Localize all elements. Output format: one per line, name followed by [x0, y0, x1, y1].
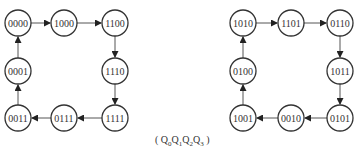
right-edges	[243, 23, 340, 118]
state-node: 0110	[327, 10, 353, 36]
state-label: 1000	[54, 18, 74, 29]
state-node: 0010	[278, 105, 304, 131]
state-node: 1011	[327, 58, 353, 84]
state-node: 0100	[230, 58, 256, 84]
state-node: 0000	[5, 10, 31, 36]
caption-close: )	[204, 134, 210, 145]
state-node: 0101	[327, 105, 353, 131]
state-label: 0110	[330, 18, 350, 29]
state-label: 0000	[8, 18, 28, 29]
state-label: 0100	[233, 66, 253, 77]
state-node: 1010	[230, 10, 256, 36]
state-node: 1111	[102, 105, 128, 131]
state-label: 0001	[8, 66, 28, 77]
state-node: 1100	[102, 10, 128, 36]
state-label: 0101	[330, 113, 350, 124]
state-label: 1001	[233, 113, 253, 124]
state-node: 1101	[278, 10, 304, 36]
subscript: 2	[190, 140, 194, 148]
subscript: 1	[179, 140, 183, 148]
state-label: 0111	[54, 113, 73, 124]
left-edges	[18, 23, 115, 118]
state-label: 1110	[105, 66, 124, 77]
state-label: 0010	[281, 113, 301, 124]
caption-open: (	[155, 134, 161, 145]
state-node: 0111	[51, 105, 77, 131]
subscript: 0	[168, 140, 172, 148]
state-label: 1010	[233, 18, 253, 29]
state-node: 1001	[230, 105, 256, 131]
state-node: 1000	[51, 10, 77, 36]
state-node: 0011	[5, 105, 31, 131]
state-order-caption: ( Q0Q1Q2Q3 )	[155, 134, 210, 148]
state-label: 0011	[8, 113, 28, 124]
state-diagram: 0000 1000 1100 1110 1111 0111 0011 0001 …	[0, 0, 355, 155]
state-label: 1101	[281, 18, 301, 29]
state-node: 1110	[102, 58, 128, 84]
state-label: 1111	[106, 113, 125, 124]
state-label: 1011	[330, 66, 350, 77]
state-node: 0001	[5, 58, 31, 84]
state-label: 1100	[105, 18, 125, 29]
